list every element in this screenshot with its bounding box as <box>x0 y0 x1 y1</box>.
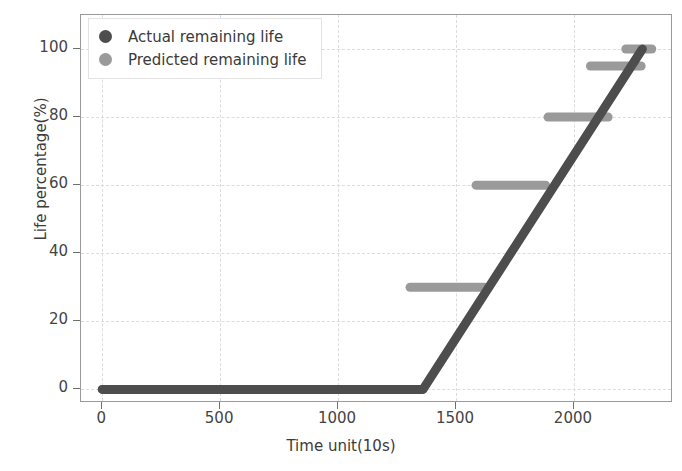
y-tick-label: 100 <box>8 40 68 55</box>
y-tick-mark <box>73 48 80 49</box>
x-tick-label: 1500 <box>415 411 495 426</box>
legend-item-actual: Actual remaining life <box>99 25 307 48</box>
legend-marker-actual-icon <box>99 30 112 43</box>
x-tick-mark <box>101 402 102 409</box>
y-tick-mark <box>73 116 80 117</box>
actual-life-line <box>102 49 642 389</box>
x-axis-label: Time unit(10s) <box>0 437 682 455</box>
y-tick-label: 40 <box>8 244 68 259</box>
y-tick-label: 0 <box>8 380 68 395</box>
x-tick-mark <box>337 402 338 409</box>
y-tick-label: 60 <box>8 176 68 191</box>
y-tick-mark <box>73 184 80 185</box>
legend-label-actual: Actual remaining life <box>128 28 283 46</box>
legend-marker-predicted-icon <box>99 53 112 66</box>
chart-figure: Life percentage(%) 020406080100 05001000… <box>0 0 682 471</box>
y-tick-mark <box>73 252 80 253</box>
y-tick-label: 20 <box>8 312 68 327</box>
legend-label-predicted: Predicted remaining life <box>128 51 307 69</box>
y-tick-label: 80 <box>8 108 68 123</box>
chart-legend: Actual remaining life Predicted remainin… <box>88 18 322 79</box>
x-tick-label: 1000 <box>297 411 377 426</box>
y-tick-mark <box>73 388 80 389</box>
x-tick-mark <box>219 402 220 409</box>
x-tick-label: 500 <box>179 411 259 426</box>
x-tick-mark <box>455 402 456 409</box>
x-tick-label: 2000 <box>533 411 613 426</box>
y-tick-mark <box>73 320 80 321</box>
x-tick-label: 0 <box>61 411 141 426</box>
x-tick-mark <box>573 402 574 409</box>
legend-item-predicted: Predicted remaining life <box>99 48 307 71</box>
